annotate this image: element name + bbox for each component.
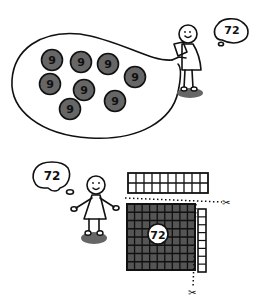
illustration: 99999999 72 72 bbox=[0, 0, 268, 302]
group-label: 9 bbox=[77, 56, 85, 69]
groups-of-nine: 99999999 bbox=[40, 50, 146, 120]
top-scene: 99999999 72 bbox=[12, 19, 248, 138]
person-bottom bbox=[71, 176, 119, 244]
grid-label-text: 72 bbox=[150, 229, 165, 242]
thought-bubble-top: 72 bbox=[215, 19, 248, 46]
group-nine: 9 bbox=[42, 50, 63, 71]
thought-bubble-bottom: 72 bbox=[33, 162, 73, 194]
thought-text-bottom: 72 bbox=[44, 169, 61, 183]
group-nine: 9 bbox=[125, 67, 146, 88]
group-nine: 9 bbox=[74, 80, 95, 101]
group-label: 9 bbox=[111, 95, 119, 108]
group-nine: 9 bbox=[40, 74, 61, 95]
grid-top-strip bbox=[128, 173, 208, 193]
group-nine: 9 bbox=[71, 52, 92, 73]
scissors-icon-right: ✂ bbox=[222, 197, 230, 208]
group-nine: 9 bbox=[105, 91, 126, 112]
group-nine: 9 bbox=[60, 99, 81, 120]
scissors-icon-bottom: ✂ bbox=[188, 287, 196, 298]
grid-label-72: 72 bbox=[148, 224, 168, 244]
group-label: 9 bbox=[104, 58, 112, 71]
grid-side-strip bbox=[198, 209, 206, 272]
cut-line-horizontal bbox=[125, 198, 222, 202]
group-bag-outline bbox=[12, 33, 181, 138]
bottom-scene: 72 ✂ ✂ 7 bbox=[33, 162, 230, 298]
group-nine: 9 bbox=[98, 54, 119, 75]
person-head bbox=[179, 25, 197, 43]
group-label: 9 bbox=[46, 78, 54, 91]
group-label: 9 bbox=[131, 71, 139, 84]
group-label: 9 bbox=[66, 103, 74, 116]
person-top bbox=[172, 25, 203, 98]
group-label: 9 bbox=[48, 54, 56, 67]
group-label: 9 bbox=[80, 84, 88, 97]
thought-text-top: 72 bbox=[224, 24, 239, 37]
